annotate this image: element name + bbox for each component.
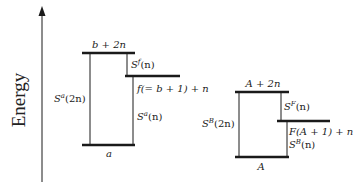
left-level-diagram: b + 2n f(= b + 1) + n a Sa(2n) Sf(n) Sa(… <box>54 39 209 159</box>
transition-long-label: SB(2n) <box>202 117 235 129</box>
transition-lower-label: Sa(n) <box>137 110 162 122</box>
transition-upper-label: Sf(n) <box>131 58 155 70</box>
axis-arrow-icon <box>39 6 46 16</box>
transition-lower-label: SB(n) <box>289 138 315 150</box>
level-middle-label: F(A + 1) + n <box>288 126 353 137</box>
transition-upper-label: SF(n) <box>284 100 310 112</box>
level-top-label: b + 2n <box>92 39 126 50</box>
energy-level-diagram: Energy b + 2n f(= b + 1) + n a Sa(2n) Sf… <box>0 0 363 189</box>
energy-axis-title: Energy <box>8 72 29 127</box>
level-middle-label: f(= b + 1) + n <box>136 83 209 94</box>
transition-long-label: Sa(2n) <box>54 92 86 104</box>
level-top-label: A + 2n <box>245 78 281 89</box>
level-bottom-label: A <box>256 161 264 172</box>
level-bottom-label: a <box>106 148 112 159</box>
right-level-diagram: A + 2n F(A + 1) + n A SB(2n) SF(n) SB(n) <box>202 78 353 172</box>
energy-axis: Energy <box>8 6 46 182</box>
